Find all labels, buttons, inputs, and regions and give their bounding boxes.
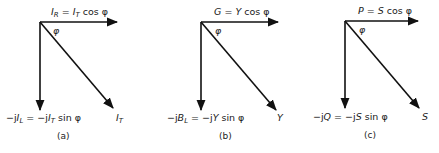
panel-b: G = Y cos φ φ −jBL = −jY sin φ Y (b)	[167, 6, 284, 141]
panel-a: IR = IT cos φ φ −jIL = −jIT sin φ IT (a)	[6, 6, 124, 141]
caption-c: (c)	[364, 130, 376, 140]
resultant-label: S	[422, 111, 428, 122]
resultant-arrow	[40, 22, 113, 108]
caption-b: (b)	[219, 131, 232, 141]
resultant-label: IT	[116, 112, 124, 125]
vertical-label: −jBL = −jY sin φ	[167, 112, 244, 125]
phasor-diagram: IR = IT cos φ φ −jIL = −jIT sin φ IT (a)…	[0, 0, 439, 153]
horizontal-label: P = S cos φ	[358, 5, 412, 16]
resultant-label: Y	[277, 112, 284, 123]
angle-phi-label: φ	[215, 25, 222, 36]
resultant-arrow	[201, 22, 276, 110]
panel-c: P = S cos φ φ −jQ = −jS sin φ S (c)	[313, 5, 428, 140]
horizontal-label: G = Y cos φ	[214, 6, 269, 17]
vertical-label: −jIL = −jIT sin φ	[6, 112, 81, 125]
resultant-arrow	[345, 21, 419, 108]
angle-phi-label: φ	[359, 24, 366, 35]
horizontal-label: IR = IT cos φ	[51, 6, 108, 19]
angle-phi-label: φ	[53, 25, 60, 36]
caption-a: (a)	[57, 131, 70, 141]
vertical-label: −jQ = −jS sin φ	[313, 111, 388, 122]
